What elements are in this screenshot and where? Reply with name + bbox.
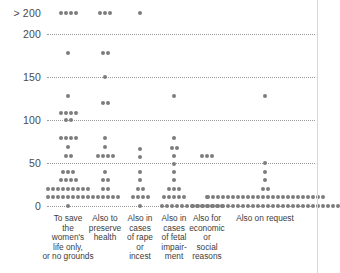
data-point — [246, 195, 250, 199]
data-point — [91, 195, 95, 199]
data-point — [306, 195, 310, 199]
data-point — [69, 11, 73, 15]
data-point — [177, 187, 181, 191]
data-point — [103, 145, 107, 149]
data-point — [98, 11, 102, 15]
data-point — [271, 195, 275, 199]
data-point — [306, 204, 310, 208]
data-point — [81, 187, 85, 191]
data-point — [76, 195, 80, 199]
data-point — [66, 94, 70, 98]
data-point — [108, 11, 112, 15]
data-point — [167, 187, 171, 191]
data-point — [136, 195, 140, 199]
data-point — [172, 162, 176, 166]
data-point — [74, 11, 78, 15]
data-point — [138, 170, 142, 174]
data-point — [231, 204, 235, 208]
data-point — [101, 195, 105, 199]
data-point — [69, 178, 73, 182]
data-point — [206, 195, 210, 199]
data-point — [172, 170, 176, 174]
data-point — [241, 204, 245, 208]
right-divider-rule — [317, 0, 318, 273]
data-point — [281, 204, 285, 208]
data-point — [81, 195, 85, 199]
x-axis-label-group: To save the women's life only, or no gro… — [0, 214, 317, 273]
data-point — [96, 154, 100, 158]
data-point — [226, 204, 230, 208]
data-point — [138, 204, 142, 208]
data-point — [170, 204, 174, 208]
data-point — [51, 187, 55, 191]
y-axis-tick-label: 50 — [0, 158, 41, 168]
data-point — [86, 195, 90, 199]
data-point — [160, 204, 164, 208]
y-axis-tick-label: 100 — [0, 115, 41, 125]
gridline-150 — [47, 77, 315, 78]
data-point — [106, 178, 110, 182]
data-point — [251, 195, 255, 199]
data-point — [61, 195, 65, 199]
data-point — [263, 178, 267, 182]
data-point — [172, 178, 176, 182]
data-point — [64, 136, 68, 140]
data-point — [172, 187, 176, 191]
y-axis-tick-label: 200 — [0, 29, 41, 39]
data-point — [136, 187, 140, 191]
data-point — [101, 154, 105, 158]
data-point — [103, 136, 107, 140]
data-point — [182, 195, 186, 199]
data-point — [276, 204, 280, 208]
data-point — [336, 204, 340, 208]
data-point — [296, 204, 300, 208]
x-axis-label-2: Also to preserve health — [83, 214, 127, 243]
data-point — [46, 187, 50, 191]
data-point — [106, 195, 110, 199]
data-point — [66, 51, 70, 55]
data-point — [170, 146, 174, 150]
gridline-50 — [47, 163, 315, 164]
data-point — [106, 154, 110, 158]
data-point — [236, 204, 240, 208]
data-point — [101, 51, 105, 55]
data-point — [291, 195, 295, 199]
data-point — [46, 195, 50, 199]
data-point — [138, 178, 142, 182]
data-point — [185, 204, 189, 208]
data-point — [201, 204, 205, 208]
data-point — [103, 75, 107, 79]
data-point — [326, 204, 330, 208]
data-point — [286, 195, 290, 199]
data-point — [64, 178, 68, 182]
data-point — [256, 204, 260, 208]
data-point — [56, 195, 60, 199]
data-point — [266, 195, 270, 199]
data-point — [61, 170, 65, 174]
data-point — [263, 94, 267, 98]
data-point — [175, 146, 179, 150]
data-point — [103, 170, 107, 174]
data-point — [66, 187, 70, 191]
data-point — [59, 178, 63, 182]
data-point — [69, 118, 73, 122]
data-point — [138, 147, 142, 151]
data-point — [64, 118, 68, 122]
data-point — [116, 195, 120, 199]
data-point — [251, 204, 255, 208]
data-point — [180, 204, 184, 208]
data-point — [311, 195, 315, 199]
data-point — [311, 204, 315, 208]
data-point — [261, 187, 265, 191]
data-point — [205, 154, 209, 158]
data-point — [191, 204, 195, 208]
data-point — [71, 170, 75, 174]
data-point — [96, 195, 100, 199]
x-axis-label-3: Also in cases of rape or incest — [122, 214, 158, 262]
data-point — [106, 187, 110, 191]
data-point — [321, 195, 325, 199]
data-point — [172, 195, 176, 199]
data-point — [200, 154, 204, 158]
data-point — [71, 187, 75, 191]
data-point — [256, 195, 260, 199]
